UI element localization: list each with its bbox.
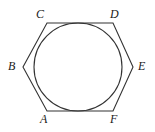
vertex-label-f: F (110, 113, 117, 125)
vertex-label-d: D (110, 8, 119, 20)
vertex-label-b: B (8, 60, 15, 72)
geometry-figure: C D E F A B (0, 0, 155, 132)
vertex-label-e: E (138, 60, 145, 72)
vertex-label-a: A (40, 113, 47, 125)
vertex-label-c: C (36, 8, 44, 20)
figure-canvas (0, 0, 155, 132)
